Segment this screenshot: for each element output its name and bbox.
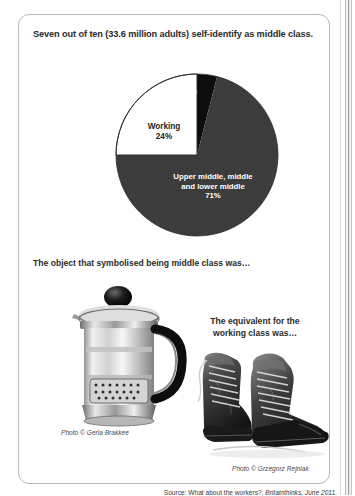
page-title: Seven out of ten (33.6 million adults) s… — [33, 28, 321, 40]
boots-photo-credit: Photo © Grzegorz Rejniak — [232, 465, 309, 472]
pie-chart: Not sure 4% Working 24% Upper middle, mi… — [114, 72, 280, 238]
boot-left — [198, 353, 254, 442]
content-card: Seven out of ten (33.6 million adults) s… — [18, 14, 330, 484]
pie-chart-svg — [114, 72, 280, 238]
working-class-heading-line1: The equivalent for the — [210, 316, 299, 326]
middle-class-heading: The object that symbolised being middle … — [33, 258, 313, 268]
boot-right — [251, 354, 329, 448]
source-citation: Source: What about the workers?, Britain… — [137, 489, 337, 496]
pie-slice-working — [116, 74, 197, 155]
cafetiere-photo — [62, 281, 187, 429]
cafetiere-photo-credit: Photo © Gerla Brakkee — [61, 429, 129, 436]
source-prefix: Source: What about the workers?, — [164, 489, 266, 496]
source-publisher: Britainthinks, June 2011. — [265, 489, 337, 496]
working-class-heading: The equivalent for the working class was… — [186, 316, 324, 339]
work-boots-photo — [195, 342, 345, 462]
working-class-heading-line2: working class was… — [213, 328, 297, 338]
